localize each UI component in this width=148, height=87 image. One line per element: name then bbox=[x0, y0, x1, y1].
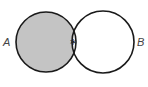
intersection-marker: * bbox=[70, 36, 77, 51]
venn-diagram: A B * bbox=[0, 0, 148, 87]
circle-b bbox=[72, 11, 134, 73]
label-b: B bbox=[137, 36, 144, 48]
label-a: A bbox=[2, 36, 10, 48]
